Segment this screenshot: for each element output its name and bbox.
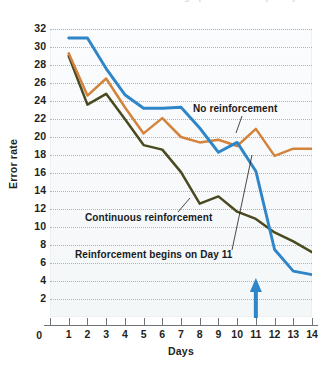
x-tick-12 — [275, 318, 276, 325]
x-tick-8 — [200, 318, 201, 325]
annotation-reinforcement-begins: Reinforcement begins on Day 11 — [75, 249, 233, 260]
x-tick-3 — [106, 318, 107, 325]
annotation-leaders-layer — [0, 0, 323, 367]
x-tick-4 — [125, 318, 126, 325]
x-tick-1 — [69, 318, 70, 325]
annotation-continuous-reinforcement: Continuous reinforcement — [85, 212, 212, 223]
leader-continuous-reinforcement — [178, 198, 190, 212]
x-tick-11 — [256, 318, 257, 325]
x-tick-7 — [181, 318, 182, 325]
x-tick-0 — [50, 318, 51, 325]
y-axis-title: Error rate — [7, 119, 19, 209]
x-axis-line — [44, 325, 318, 326]
leader-reinforcement-begins — [232, 155, 252, 250]
x-tick-10 — [237, 318, 238, 325]
x-tick-14 — [312, 318, 313, 325]
x-tick-6 — [162, 318, 163, 325]
x-tick-5 — [144, 318, 145, 325]
chart-figure: reinforcement schedules can change perfo… — [0, 0, 323, 367]
x-tick-label-14: 14 — [301, 328, 323, 340]
annotation-no-reinforcement: No reinforcement — [193, 103, 277, 114]
day11-arrow-marker — [250, 278, 262, 318]
x-axis-title: Days — [50, 345, 312, 357]
x-tick-9 — [218, 318, 219, 325]
x-tick-13 — [293, 318, 294, 325]
leader-no-reinforcement — [236, 116, 242, 133]
x-tick-2 — [87, 318, 88, 325]
